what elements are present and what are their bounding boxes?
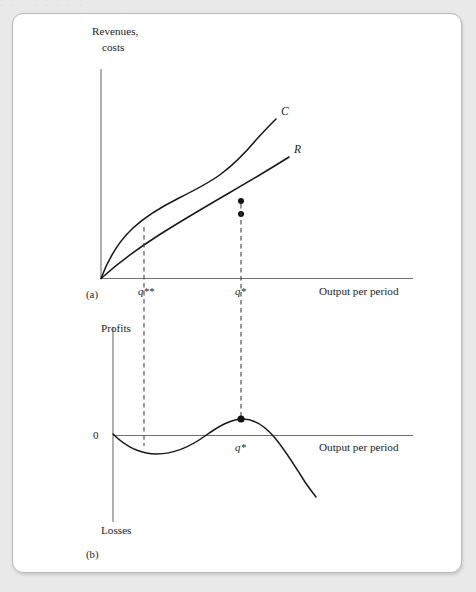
- panel-a-y-axis-label-line1: Revenues,: [92, 25, 138, 37]
- panel-a: C R Revenues, costs Output per period q*…: [86, 25, 413, 301]
- economics-figure: C R Revenues, costs Output per period q*…: [13, 14, 462, 573]
- panel-b-y-axis-label-top: Profits: [101, 322, 131, 334]
- panel-b-y-axis-label-bottom: Losses: [101, 524, 131, 536]
- panel-b-origin-label: 0: [93, 429, 99, 441]
- revenue-curve-label: R: [293, 143, 301, 155]
- panel-b-marker: (b): [86, 548, 99, 561]
- panel-b-profit-curve: [113, 419, 316, 497]
- panel-a-y-axis-label-line2: costs: [102, 41, 124, 53]
- panel-b: Profits Losses 0 Output per period q* (b…: [86, 322, 413, 561]
- panel-b-marker-max-profit: [237, 415, 244, 422]
- panel-a-marker-revenue-at-qstar: [238, 198, 244, 204]
- cost-curve-label: C: [281, 105, 289, 117]
- panel-b-x-axis-label: Output per period: [319, 441, 399, 453]
- panel-a-q-double-star-label: q**: [138, 285, 155, 297]
- panel-a-x-axis-label: Output per period: [319, 285, 399, 297]
- panel-a-marker: (a): [86, 288, 98, 301]
- figure-card: C R Revenues, costs Output per period q*…: [12, 13, 462, 573]
- panel-a-cost-curve: [101, 119, 276, 279]
- page-bleed-text: · · · · · · · ·: [0, 0, 476, 7]
- panel-a-revenue-curve: [101, 157, 289, 279]
- panel-b-q-star-label: q*: [235, 441, 246, 453]
